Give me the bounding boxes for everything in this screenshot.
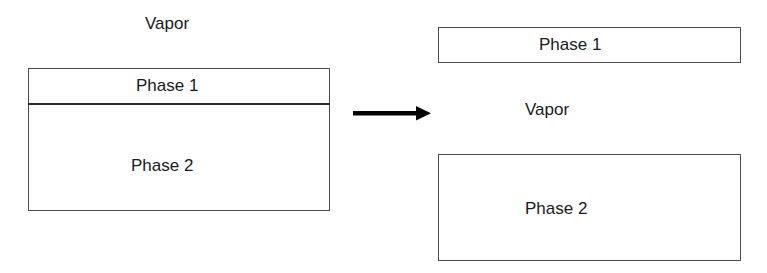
left-phase2-label: Phase 2 <box>131 156 193 176</box>
right-vapor-label: Vapor <box>525 100 569 120</box>
left-vapor-label: Vapor <box>145 14 189 34</box>
phase-interface-divider <box>28 103 330 105</box>
right-phase2-box <box>438 154 741 261</box>
right-phase1-label: Phase 1 <box>539 35 601 55</box>
arrow-right-icon <box>350 104 436 122</box>
right-phase2-label: Phase 2 <box>525 199 587 219</box>
left-phase1-label: Phase 1 <box>136 76 198 96</box>
